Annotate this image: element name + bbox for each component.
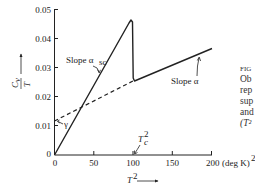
x-ticks	[94, 151, 212, 155]
svg-text:0.05: 0.05	[35, 5, 51, 15]
slope-a-annotation: Slope α	[171, 57, 201, 86]
svg-text:150: 150	[166, 158, 180, 168]
y-tick-labels: 0.05 0.04 0.03 0.02 0.01 0	[35, 5, 51, 160]
tc-annotation: T c 2	[135, 129, 149, 154]
gamma-annotation: γ	[57, 119, 68, 129]
svg-text:0: 0	[53, 158, 58, 168]
svg-text:0.02: 0.02	[35, 92, 51, 102]
svg-text:Slope α: Slope α	[66, 55, 94, 65]
svg-text:v: v	[12, 78, 22, 82]
x-axis-title: T 2	[127, 171, 159, 185]
svg-text:100: 100	[126, 158, 140, 168]
y-ticks	[55, 10, 59, 126]
svg-text:(deg K): (deg K)	[222, 158, 250, 168]
svg-text:200: 200	[206, 158, 220, 168]
svg-text:0.01: 0.01	[35, 121, 51, 131]
svg-text:0.03: 0.03	[35, 63, 51, 73]
slope-sc-annotation: Slope α sc	[66, 55, 107, 73]
y-axis-title: C v T	[10, 54, 32, 90]
specific-heat-curve	[55, 20, 213, 155]
normal-state-dashed-line	[55, 81, 135, 122]
svg-text:0.04: 0.04	[35, 34, 51, 44]
svg-text:2: 2	[251, 153, 255, 163]
svg-text:sc: sc	[99, 57, 107, 67]
svg-text:γ: γ	[63, 119, 68, 129]
svg-text:50: 50	[89, 158, 99, 168]
svg-text:2: 2	[133, 171, 138, 181]
svg-text:2: 2	[144, 129, 149, 139]
chart: 0.05 0.04 0.03 0.02 0.01 0 0 50 100 150 …	[0, 0, 255, 192]
svg-text:Slope α: Slope α	[171, 76, 199, 86]
svg-text:T: T	[22, 81, 32, 87]
svg-text:0: 0	[47, 149, 52, 159]
